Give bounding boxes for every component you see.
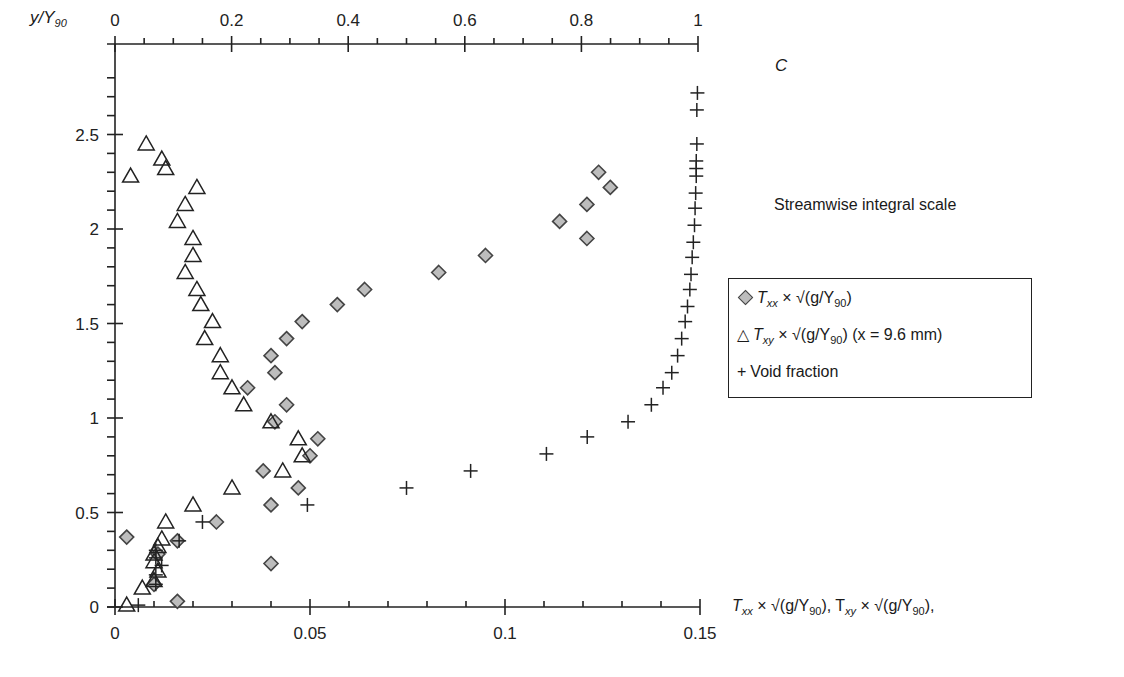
svg-text:0.15: 0.15 [683,624,716,643]
legend-txy-sub: xy [763,334,774,346]
top-axis-label: C [775,56,787,76]
svg-text:0.5: 0.5 [75,504,99,523]
series-plus [131,86,704,612]
svg-text:0.4: 0.4 [336,11,360,30]
svg-text:0: 0 [110,624,119,643]
svg-text:1.5: 1.5 [75,315,99,334]
legend: Txx × √(g/Y90) △Txy × √(g/Y90) (x = 9.6 … [728,278,1032,398]
legend-txy-sub2: 90 [830,334,842,346]
bottom-axis-part4: × √(g/Y [856,597,912,614]
legend-void-text: Void fraction [750,363,838,380]
y-axis-label-sub: 90 [55,17,67,29]
legend-txx-T: T [757,289,767,306]
bottom-axis-sub1: xx [742,605,753,617]
svg-text:2: 2 [90,220,99,239]
legend-txx-sub2: 90 [834,297,846,309]
svg-text:0.6: 0.6 [453,11,477,30]
svg-text:2.5: 2.5 [75,126,99,145]
legend-item-void: +Void fraction [737,363,838,381]
svg-text:0.05: 0.05 [293,624,326,643]
bottom-axis-sub4: 90 [912,605,924,617]
diamond-marker-icon [738,290,754,306]
bottom-axis-T1: T [732,597,742,614]
y-axis-label: y/Y90 [30,8,67,29]
plus-marker-icon: + [737,363,746,380]
bottom-axis-label: Txx × √(g/Y90), Txy × √(g/Y90), [732,597,934,617]
y-axis-label-text: y/Y [30,8,55,27]
tick-labels: 00.511.522.500.050.10.1500.20.40.60.81 [75,11,716,643]
bottom-axis-sub3: xy [845,605,856,617]
svg-text:1: 1 [693,11,702,30]
svg-text:0: 0 [90,598,99,617]
triangle-marker-icon: △ [737,326,749,343]
legend-txy-tail: ) (x = 9.6 mm) [842,326,942,343]
legend-txx-tail: ) [846,289,851,306]
legend-txx-rest: × √(g/Y [778,289,834,306]
bottom-axis-sub2: 90 [809,605,821,617]
bottom-axis-part3: ), T [821,597,845,614]
svg-text:0: 0 [110,11,119,30]
legend-item-txx: Txx × √(g/Y90) [737,289,852,309]
bottom-axis-part5: ), [925,597,935,614]
axes [107,36,700,615]
svg-text:0.1: 0.1 [493,624,517,643]
legend-item-txy: △Txy × √(g/Y90) (x = 9.6 mm) [737,325,942,346]
chart-title: Streamwise integral scale [774,196,956,214]
svg-text:0.8: 0.8 [570,11,594,30]
legend-txy-T: T [753,326,763,343]
svg-text:1: 1 [90,409,99,428]
bottom-axis-part2: × √(g/Y [753,597,809,614]
legend-txx-sub: xx [767,297,778,309]
legend-txy-rest: × √(g/Y [774,326,830,343]
data-points [119,86,705,612]
svg-text:0.2: 0.2 [220,11,244,30]
